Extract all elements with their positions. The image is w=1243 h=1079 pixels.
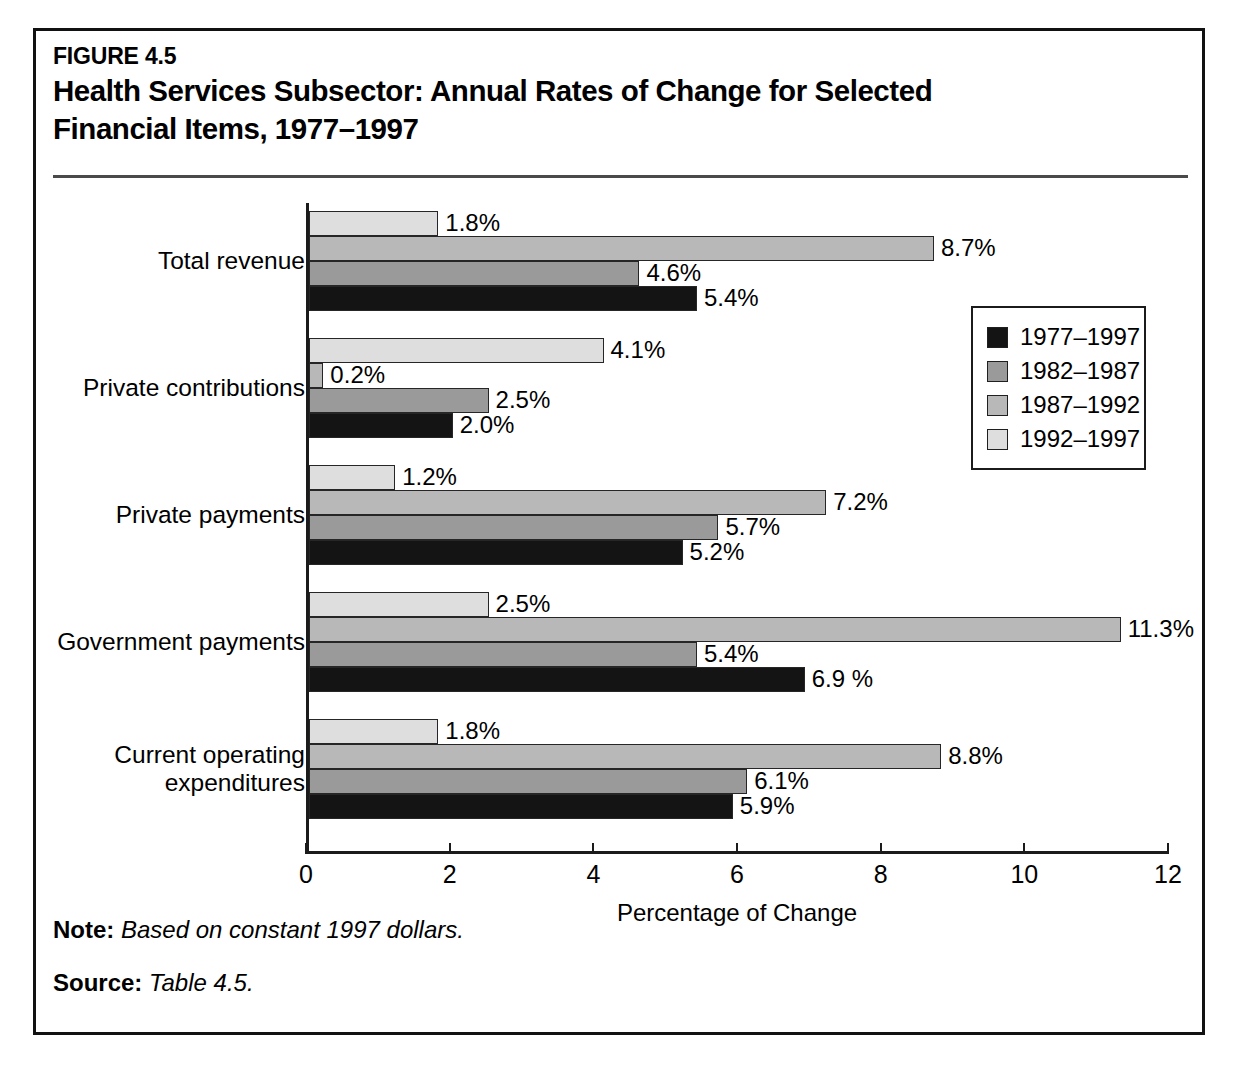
x-axis-tick-label: 4 (586, 860, 600, 889)
bar-value-label: 0.2% (323, 361, 385, 389)
legend-label: 1992–1997 (1020, 425, 1140, 453)
bar-row: 5.2% (309, 540, 1202, 565)
category-label: Private contributions (0, 374, 305, 402)
chart-legend: 1977–19971982–19871987–19921992–1997 (971, 306, 1146, 470)
figure-number: FIGURE 4.5 (53, 43, 1188, 70)
bar-chart: 024681012 Percentage of Change Total rev… (36, 191, 1202, 901)
bar-value-label: 4.1% (604, 336, 666, 364)
bar-value-label: 6.9 % (805, 665, 873, 693)
bar-row: 5.9% (309, 794, 1202, 819)
bar-row: 6.1% (309, 769, 1202, 794)
bar[interactable] (309, 413, 453, 438)
figure-title: Health Services Subsector: Annual Rates … (53, 72, 1063, 148)
legend-item[interactable]: 1992–1997 (987, 422, 1134, 456)
bar-value-label: 5.2% (683, 538, 745, 566)
legend-swatch-icon (987, 395, 1008, 416)
bars-container: 2.5%11.3%5.4%6.9 % (309, 592, 1202, 692)
bar-row: 6.9 % (309, 667, 1202, 692)
bar[interactable] (309, 540, 683, 565)
legend-swatch-icon (987, 361, 1008, 382)
x-axis-tick (592, 843, 594, 854)
bar-row: 8.8% (309, 744, 1202, 769)
bar[interactable] (309, 769, 747, 794)
note-label: Note: (53, 916, 114, 943)
x-axis-tick-label: 2 (443, 860, 457, 889)
bar-value-label: 5.7% (718, 513, 780, 541)
bar[interactable] (309, 261, 639, 286)
bar[interactable] (309, 286, 697, 311)
legend-items: 1977–19971982–19871987–19921992–1997 (987, 320, 1134, 456)
bar[interactable] (309, 667, 805, 692)
bar[interactable] (309, 515, 718, 540)
bar[interactable] (309, 211, 438, 236)
source-row: Source: Table 4.5. (53, 969, 1153, 998)
category-label: Private payments (0, 501, 305, 529)
category-label: Total revenue (0, 247, 305, 275)
source-value: Table 4.5. (149, 969, 254, 996)
bar-value-label: 8.8% (941, 742, 1003, 770)
note-row: Note: Based on constant 1997 dollars. (53, 916, 1153, 945)
bar[interactable] (309, 642, 697, 667)
x-axis-tick-label: 10 (1010, 860, 1038, 889)
bar-row: 5.4% (309, 642, 1202, 667)
bar-value-label: 2.0% (453, 411, 515, 439)
x-axis-tick (305, 843, 307, 854)
x-axis-tick (1167, 843, 1169, 854)
bar[interactable] (309, 794, 733, 819)
bar-value-label: 5.9% (733, 792, 795, 820)
bar-row: 11.3% (309, 617, 1202, 642)
bar-group: Current operating expenditures1.8%8.8%6.… (36, 719, 1202, 819)
x-axis-tick-label: 8 (874, 860, 888, 889)
figure-header: FIGURE 4.5 Health Services Subsector: An… (53, 43, 1188, 148)
bar-value-label: 1.8% (438, 209, 500, 237)
bar-row: 4.6% (309, 261, 1202, 286)
figure-frame: FIGURE 4.5 Health Services Subsector: An… (33, 28, 1205, 1035)
bar-row: 2.5% (309, 592, 1202, 617)
bar[interactable] (309, 338, 604, 363)
category-label: Government payments (0, 628, 305, 656)
bar-group: Government payments2.5%11.3%5.4%6.9 % (36, 592, 1202, 692)
plot-area: 024681012 Percentage of Change Total rev… (36, 191, 1202, 901)
x-axis-tick (449, 843, 451, 854)
bar-row: 7.2% (309, 490, 1202, 515)
legend-label: 1987–1992 (1020, 391, 1140, 419)
x-axis-tick-label: 0 (299, 860, 313, 889)
bars-container: 1.8%8.8%6.1%5.9% (309, 719, 1202, 819)
note-value: Based on constant 1997 dollars. (121, 916, 464, 943)
bar-value-label: 4.6% (639, 259, 701, 287)
category-label: Current operating expenditures (0, 741, 305, 798)
bar-group: Total revenue1.8%8.7%4.6%5.4% (36, 211, 1202, 311)
bar[interactable] (309, 236, 934, 261)
bar-value-label: 5.4% (697, 640, 759, 668)
legend-label: 1977–1997 (1020, 323, 1140, 351)
title-divider (53, 175, 1188, 178)
bar-group: Private payments1.2%7.2%5.7%5.2% (36, 465, 1202, 565)
bar-value-label: 2.5% (489, 590, 551, 618)
figure-notes: Note: Based on constant 1997 dollars. So… (53, 916, 1153, 1022)
bar[interactable] (309, 592, 489, 617)
bar[interactable] (309, 465, 395, 490)
legend-item[interactable]: 1982–1987 (987, 354, 1134, 388)
bar-value-label: 11.3% (1121, 615, 1194, 643)
legend-swatch-icon (987, 429, 1008, 450)
source-label: Source: (53, 969, 142, 996)
bar[interactable] (309, 617, 1121, 642)
bar-value-label: 7.2% (826, 488, 888, 516)
legend-label: 1982–1987 (1020, 357, 1140, 385)
bar-value-label: 1.2% (395, 463, 457, 491)
bar[interactable] (309, 744, 941, 769)
legend-item[interactable]: 1977–1997 (987, 320, 1134, 354)
bar-value-label: 1.8% (438, 717, 500, 745)
bar[interactable] (309, 719, 438, 744)
x-axis-tick-label: 6 (730, 860, 744, 889)
bars-container: 1.2%7.2%5.7%5.2% (309, 465, 1202, 565)
x-axis-tick (880, 843, 882, 854)
x-axis-tick-label: 12 (1154, 860, 1182, 889)
legend-swatch-icon (987, 327, 1008, 348)
bar[interactable] (309, 388, 489, 413)
legend-item[interactable]: 1987–1992 (987, 388, 1134, 422)
bar[interactable] (309, 363, 323, 388)
bar-value-label: 2.5% (489, 386, 551, 414)
bar[interactable] (309, 490, 826, 515)
x-axis-tick (736, 843, 738, 854)
